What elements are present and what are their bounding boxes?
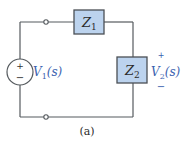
circuit-diagram: Z1 Z2 + − V1(s) + V2(s) − (a) [0, 0, 186, 148]
output-minus: − [157, 81, 165, 92]
source-minus: − [16, 72, 24, 83]
output-voltage-label: V2(s) [151, 65, 181, 81]
voltage-source: + − [7, 59, 33, 85]
bottom-terminal [44, 115, 48, 119]
impedance-z1: Z1 [74, 10, 104, 34]
impedance-z2: Z2 [117, 57, 147, 83]
top-terminal [44, 20, 48, 24]
figure-caption: (a) [79, 125, 94, 138]
source-plus: + [16, 61, 24, 71]
source-voltage-label: V1(s) [33, 65, 63, 81]
output-plus: + [158, 51, 165, 60]
